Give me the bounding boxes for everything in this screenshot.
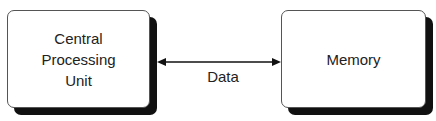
edge-label-data: Data bbox=[200, 68, 246, 85]
bidirectional-arrow-icon bbox=[0, 0, 436, 121]
